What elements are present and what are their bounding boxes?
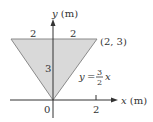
height-label: 3 <box>45 63 51 74</box>
triangle-region <box>11 39 97 100</box>
svg-text:x: x <box>105 71 111 82</box>
x-axis-label: x (m) <box>121 95 147 106</box>
line-equation: y = 3 2 x <box>78 68 111 87</box>
svg-text:3: 3 <box>97 68 102 77</box>
y-axis-arrow-icon <box>51 19 56 26</box>
vertex-label: (2, 3) <box>100 36 127 47</box>
y-axis-label: y (m) <box>51 8 78 19</box>
svg-text:y: y <box>78 71 85 82</box>
x-tick-label: 2 <box>93 104 99 115</box>
svg-text:=: = <box>87 71 95 82</box>
top-left-width-label: 2 <box>30 28 36 39</box>
x-axis-arrow-icon <box>111 98 118 103</box>
origin-label: 0 <box>44 104 50 115</box>
triangle-diagram: y (m) 2 2 (2, 3) 3 y = 3 2 x 0 2 x (m) <box>0 0 153 122</box>
top-right-width-label: 2 <box>70 28 76 39</box>
svg-text:2: 2 <box>97 78 102 87</box>
